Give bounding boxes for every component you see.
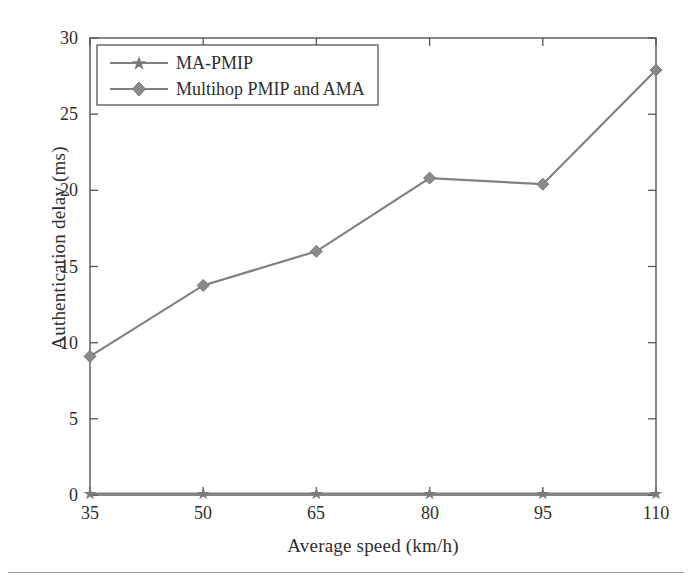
y-axis-title: Authentication delay (ms) [48, 68, 70, 428]
series-line-multihop-pmip-and-ama [90, 70, 656, 356]
x-axis-title: Average speed (km/h) [90, 535, 656, 557]
xtick-label-110: 110 [626, 503, 686, 524]
legend-label-multihop-pmip-and-ama: Multihop PMIP and AMA [176, 79, 365, 100]
xtick-label-50: 50 [173, 503, 233, 524]
xtick-label-65: 65 [286, 503, 346, 524]
xtick-label-95: 95 [513, 503, 573, 524]
series-markers-multihop-pmip-and-ama [84, 64, 662, 362]
xtick-label-35: 35 [60, 503, 120, 524]
legend-label-ma-pmip: MA-PMIP [176, 53, 253, 74]
x-axis-ticks [90, 38, 656, 495]
xtick-label-80: 80 [400, 503, 460, 524]
page-divider-rule [8, 572, 684, 573]
plot-frame [90, 38, 656, 495]
y-axis-ticks [90, 38, 656, 495]
ytick-label-30: 30 [34, 28, 78, 49]
figure-container: MA-PMIP Multihop PMIP and AMA 0 5 10 15 … [0, 0, 691, 581]
